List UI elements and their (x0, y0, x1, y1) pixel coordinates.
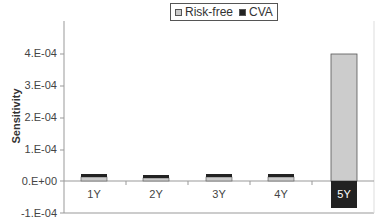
bar-1y-risk-free (81, 177, 107, 181)
bar-3y-risk-free (206, 177, 232, 181)
bar-5y-risk-free (331, 54, 357, 181)
x-tick-label: 5Y (324, 188, 364, 200)
bar-2y-risk-free (143, 178, 169, 181)
bar-1y-cva (81, 174, 107, 177)
x-tick-label: 1Y (74, 188, 114, 200)
x-tick-label: 2Y (136, 188, 176, 200)
bar-4y-cva (268, 174, 294, 177)
x-tick-label: 4Y (261, 188, 301, 200)
bar-2y-cva (143, 175, 169, 178)
bar-4y-risk-free (268, 177, 294, 181)
bar-3y-cva (206, 174, 232, 177)
x-tick-label: 3Y (199, 188, 239, 200)
plot-area (0, 0, 379, 223)
